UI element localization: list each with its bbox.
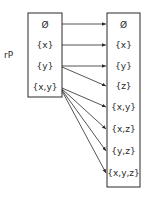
left-item-xy: {x,y} bbox=[33, 82, 58, 92]
left-item-x: {x} bbox=[37, 40, 54, 50]
right-item-xy: {x,y} bbox=[111, 102, 136, 112]
arrow-xy-xz bbox=[62, 89, 106, 129]
arrow-xy-yz bbox=[62, 90, 106, 151]
powerset-map-diagram: rP Ø {x} {y} {x,y} Ø {x} {y} {z} {x,y} {… bbox=[0, 0, 148, 199]
right-item-empty: Ø bbox=[120, 20, 127, 30]
left-item-y: {y} bbox=[37, 61, 54, 71]
arrows bbox=[62, 24, 106, 173]
right-item-xyz: {x,y,z} bbox=[107, 168, 140, 178]
right-item-yz: {y,z} bbox=[111, 146, 135, 156]
right-item-y: {y} bbox=[115, 61, 132, 71]
arrow-y-z bbox=[62, 67, 106, 86]
left-item-empty: Ø bbox=[41, 20, 48, 30]
arrow-xy-xy bbox=[62, 88, 106, 107]
right-item-xz: {x,z} bbox=[111, 124, 135, 134]
arrow-xy-xyz bbox=[62, 91, 106, 173]
right-item-z: {z} bbox=[115, 81, 131, 91]
right-item-x: {x} bbox=[115, 40, 132, 50]
side-label: rP bbox=[4, 50, 14, 60]
